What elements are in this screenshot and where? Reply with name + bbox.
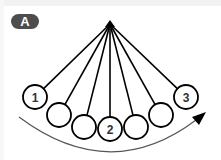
pendulum-string bbox=[87, 24, 110, 115]
pendulum-ball bbox=[124, 115, 148, 139]
ball-position-label: 1 bbox=[32, 91, 39, 105]
pendulum-ball bbox=[72, 115, 96, 139]
pendulum-string bbox=[110, 24, 133, 115]
ball-position-label: 2 bbox=[107, 123, 114, 137]
pendulum-string bbox=[110, 24, 177, 89]
pendulum-ball bbox=[47, 103, 71, 127]
pendulum-string bbox=[110, 24, 155, 105]
pendulum-string bbox=[65, 24, 110, 105]
arrow-head-icon bbox=[192, 112, 206, 125]
pivot-point-icon bbox=[105, 20, 115, 27]
pendulum-ball bbox=[149, 103, 173, 127]
pendulum-string bbox=[44, 24, 110, 89]
ball-position-label: 3 bbox=[183, 91, 190, 105]
pendulum-diagram: 123 bbox=[0, 0, 221, 160]
